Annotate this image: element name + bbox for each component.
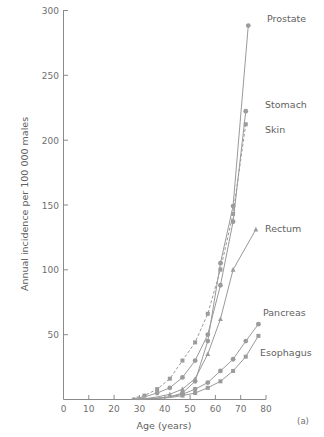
y-tick-label-150: 150 [42, 201, 59, 211]
series-line-stomach [132, 111, 246, 399]
data-point [180, 359, 184, 363]
series-label-stomach: Stomach [265, 99, 307, 110]
data-point [256, 334, 260, 338]
y-tick-label-100: 100 [42, 265, 59, 275]
data-point [218, 379, 222, 383]
x-tick-label-20: 20 [108, 404, 120, 414]
x-tick-label-40: 40 [159, 404, 171, 414]
series-label-pancreas: Pancreas [263, 307, 306, 318]
series-stomach [132, 109, 248, 399]
x-tick-label-0: 0 [61, 404, 67, 414]
data-point [155, 387, 159, 391]
data-point [256, 322, 261, 327]
data-point [218, 283, 223, 288]
data-point [253, 227, 258, 232]
data-point [167, 385, 172, 390]
data-series-layer [132, 23, 261, 399]
data-point [243, 109, 248, 114]
x-tick-label-30: 30 [134, 404, 146, 414]
panel-label: (a) [297, 416, 309, 426]
data-point [244, 355, 248, 359]
y-tick-label-300: 300 [42, 6, 59, 16]
series-line-rectum [132, 229, 256, 399]
data-point [218, 316, 223, 321]
data-point [193, 358, 198, 363]
data-point [155, 391, 160, 396]
data-point [205, 380, 210, 385]
x-tick-label-10: 10 [83, 404, 95, 414]
data-point [180, 394, 184, 398]
y-tick-label-200: 200 [42, 136, 59, 146]
data-point [168, 377, 172, 381]
series-line-prostate [132, 26, 248, 400]
data-point [231, 212, 235, 216]
data-point [193, 387, 198, 392]
y-tick-label-50: 50 [48, 330, 60, 340]
y-axis-tick-labels: 300 250 200 150 100 50 [42, 6, 59, 340]
x-tick-label-50: 50 [184, 404, 196, 414]
data-point [205, 332, 210, 337]
y-axis-title: Annual incidence per 100 000 males [19, 117, 30, 291]
data-point [143, 394, 147, 398]
series-label-skin: Skin [265, 124, 285, 135]
data-point [193, 391, 197, 395]
chart-figure: 300 250 200 150 100 50 0 10 20 30 40 50 [0, 0, 324, 437]
series-skin [132, 122, 248, 398]
series-rectum [132, 227, 258, 400]
y-axis-ticks [64, 11, 69, 335]
data-point [231, 357, 236, 362]
data-point [243, 339, 248, 344]
data-point [246, 23, 251, 28]
data-point [206, 386, 210, 390]
data-point [206, 312, 210, 316]
data-point [205, 339, 210, 344]
data-point [231, 267, 236, 272]
x-axis-tick-labels: 0 10 20 30 40 50 60 70 80 [61, 404, 272, 414]
x-tick-label-70: 70 [235, 404, 247, 414]
data-point [180, 375, 185, 380]
data-point [205, 351, 210, 356]
incidence-by-age-line-chart: 300 250 200 150 100 50 0 10 20 30 40 50 [0, 0, 324, 437]
data-point [218, 268, 222, 272]
x-tick-label-60: 60 [210, 404, 222, 414]
data-point [231, 369, 235, 373]
series-label-esophagus: Esophagus [260, 347, 312, 358]
data-point [193, 340, 197, 344]
x-tick-label-80: 80 [260, 404, 272, 414]
series-label-rectum: Rectum [265, 223, 301, 234]
series-line-skin [132, 124, 246, 398]
data-point [244, 122, 248, 126]
y-tick-label-250: 250 [42, 71, 59, 81]
x-axis-title: Age (years) [137, 420, 192, 431]
series-labels-layer: ProstateStomachSkinRectumPancreasEsophag… [260, 13, 312, 358]
series-label-prostate: Prostate [267, 13, 306, 24]
series-prostate [132, 23, 251, 399]
data-point [218, 369, 223, 374]
